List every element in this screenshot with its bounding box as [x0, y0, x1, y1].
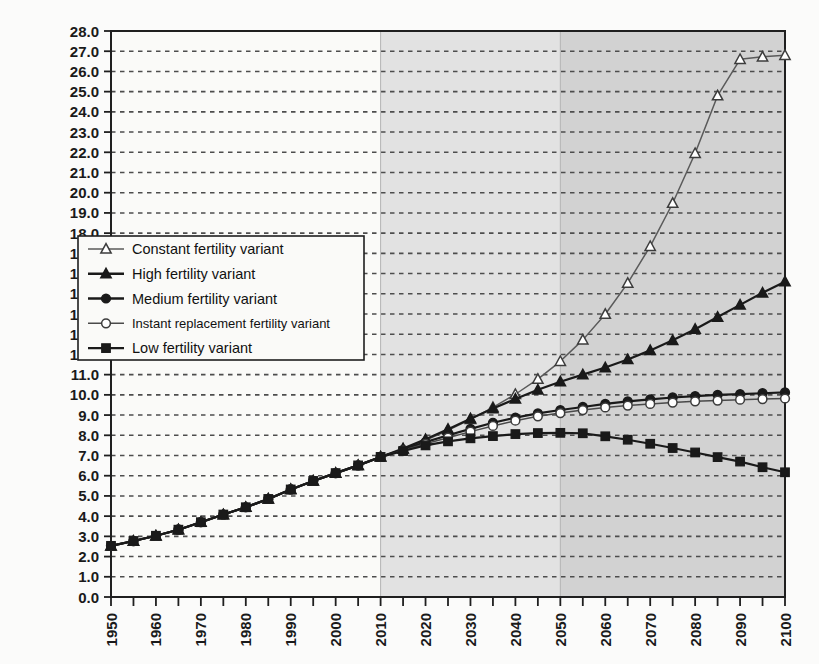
data-point-marker-filled-square	[444, 437, 452, 445]
x-axis-tick-label: 2040	[507, 613, 524, 646]
x-axis-tick-label: 1950	[103, 613, 120, 646]
data-point-marker-filled-square	[713, 453, 721, 461]
data-point-marker-filled-square	[758, 463, 766, 471]
data-point-marker-open-circle	[736, 395, 745, 404]
y-axis-tick-label: 3.0	[78, 528, 99, 545]
y-axis-tick-label: 0.0	[78, 589, 99, 606]
y-axis-tick-label: 24.0	[70, 103, 99, 120]
data-point-marker-open-circle	[623, 401, 632, 410]
data-point-marker-open-circle	[668, 398, 677, 407]
y-axis-tick-label: 26.0	[70, 63, 99, 80]
data-point-marker-filled-square	[174, 525, 182, 533]
population-projection-chart: 0.01.02.03.04.05.06.07.08.09.010.011.012…	[0, 0, 819, 664]
y-axis-tick-label: 20.0	[70, 184, 99, 201]
data-point-marker-filled-square	[556, 429, 564, 437]
y-axis-tick-label: 10.0	[70, 386, 99, 403]
data-point-marker-filled-square	[107, 542, 115, 550]
y-axis-tick-label: 11.0	[71, 366, 99, 383]
legend-item-label: High fertility variant	[132, 266, 255, 282]
data-point-marker-filled-square	[197, 518, 205, 526]
data-point-marker-filled-square	[421, 441, 429, 449]
data-point-marker-open-circle	[646, 400, 655, 409]
x-axis-tick-label: 2000	[327, 613, 344, 646]
x-axis-tick-label: 2090	[732, 613, 749, 646]
y-axis-tick-label: 6.0	[78, 467, 99, 484]
chart-canvas: 0.01.02.03.04.05.06.07.08.09.010.011.012…	[0, 0, 819, 664]
data-point-marker-open-circle	[601, 403, 610, 412]
data-point-marker-filled-square	[102, 344, 110, 352]
xtick-labels-layer: 1950196019701980199020002010202020302040…	[103, 613, 794, 646]
legend-item-label: Medium fertility variant	[132, 291, 277, 307]
data-point-marker-filled-square	[376, 453, 384, 461]
x-axis-tick-label: 1960	[147, 613, 164, 646]
y-axis-tick-label: 23.0	[70, 124, 99, 141]
x-axis-tick-label: 2050	[552, 613, 569, 646]
data-point-marker-open-circle	[691, 397, 700, 406]
x-axis-tick-label: 1990	[282, 613, 299, 646]
data-point-marker-open-circle	[533, 412, 542, 421]
data-point-marker-filled-square	[152, 532, 160, 540]
y-axis-tick-label: 25.0	[70, 83, 99, 100]
legend-item-label: Constant fertility variant	[132, 241, 284, 257]
data-point-marker-filled-circle	[102, 294, 111, 303]
x-axis-tick-label: 2060	[597, 613, 614, 646]
y-axis-tick-label: 7.0	[78, 447, 99, 464]
legend-item-label: Instant replacement fertility variant	[132, 316, 330, 331]
data-point-marker-open-circle	[758, 395, 767, 404]
x-axis-tick-label: 2010	[372, 613, 389, 646]
data-point-marker-filled-square	[129, 537, 137, 545]
data-point-marker-filled-square	[624, 436, 632, 444]
data-point-marker-filled-square	[691, 448, 699, 456]
x-axis-tick-label: 2020	[417, 613, 434, 646]
data-point-marker-open-circle	[578, 406, 587, 415]
data-point-marker-filled-square	[287, 485, 295, 493]
data-point-marker-filled-square	[736, 457, 744, 465]
data-point-marker-filled-square	[534, 429, 542, 437]
data-point-marker-open-circle	[713, 396, 722, 405]
y-axis-tick-label: 28.0	[70, 23, 99, 40]
y-axis-tick-label: 21.0	[70, 164, 99, 181]
data-point-marker-filled-square	[489, 432, 497, 440]
x-axis-tick-label: 1980	[237, 613, 254, 646]
data-point-marker-filled-square	[668, 444, 676, 452]
data-point-marker-filled-square	[601, 432, 609, 440]
x-axis-tick-label: 2030	[462, 613, 479, 646]
legend-item-label: Low fertility variant	[132, 340, 252, 356]
x-axis-tick-label: 2100	[777, 613, 794, 646]
y-axis-tick-label: 5.0	[78, 487, 99, 504]
shaded-region-projection-light	[381, 31, 561, 597]
data-point-marker-filled-square	[511, 430, 519, 438]
data-point-marker-filled-square	[264, 495, 272, 503]
y-axis-tick-label: 8.0	[78, 427, 99, 444]
data-point-marker-open-circle	[489, 422, 498, 431]
x-axis-tick-label: 1970	[192, 613, 209, 646]
y-axis-tick-label: 9.0	[78, 407, 99, 424]
data-point-marker-filled-square	[399, 447, 407, 455]
data-point-marker-filled-square	[646, 440, 654, 448]
data-point-marker-filled-square	[579, 429, 587, 437]
data-point-marker-filled-square	[219, 510, 227, 518]
y-axis-tick-label: 1.0	[78, 568, 99, 585]
y-axis-tick-label: 19.0	[70, 204, 99, 221]
y-axis-tick-label: 2.0	[78, 548, 99, 565]
y-axis-tick-label: 4.0	[78, 508, 99, 525]
y-axis-tick-label: 27.0	[70, 43, 99, 60]
data-point-marker-open-circle	[556, 409, 565, 418]
data-point-marker-filled-square	[781, 468, 789, 476]
x-axis-tick-label: 2080	[687, 613, 704, 646]
legend-layer: Constant fertility variantHigh fertility…	[78, 236, 364, 360]
data-point-marker-filled-square	[331, 469, 339, 477]
data-point-marker-filled-square	[354, 461, 362, 469]
data-point-marker-filled-square	[309, 477, 317, 485]
data-point-marker-open-circle	[102, 319, 111, 328]
data-point-marker-filled-square	[466, 434, 474, 442]
x-axis-tick-label: 2070	[642, 613, 659, 646]
data-point-marker-filled-square	[242, 503, 250, 511]
data-point-marker-open-circle	[781, 394, 790, 403]
y-axis-tick-label: 22.0	[70, 144, 99, 161]
data-point-marker-open-circle	[511, 416, 520, 425]
